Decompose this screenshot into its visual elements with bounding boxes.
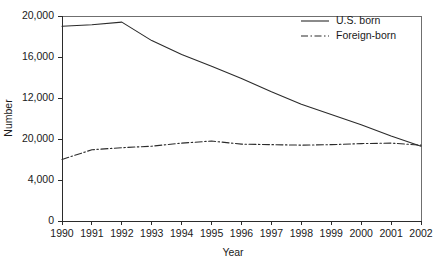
x-axis-tick-label: 1994 (170, 227, 194, 239)
plot-axes (62, 16, 421, 221)
x-axis-tick-label: 1999 (320, 227, 344, 239)
x-axis-tick-label: 1990 (50, 227, 74, 239)
chart-container: 04,00020,00012,00016,00020,000 199019911… (0, 0, 448, 262)
y-axis-tick-label: 12,000 (22, 91, 54, 103)
x-axis-tick-label: 1991 (80, 227, 104, 239)
x-axis-tick-label: 1996 (230, 227, 254, 239)
plot-frame-top-right (62, 16, 421, 221)
legend-label-2: Foreign-born (336, 29, 396, 41)
y-axis-tick-label: 20,000 (22, 9, 54, 21)
chart-legend: U.S. bornForeign-born (301, 14, 396, 41)
y-axis-ticks: 04,00020,00012,00016,00020,000 (22, 9, 62, 226)
x-axis-tick-label: 2000 (349, 227, 373, 239)
y-axis-title: Number (2, 99, 14, 137)
x-axis-ticks: 1990199119921993199419951996199719981999… (50, 221, 433, 239)
series-line-2 (62, 141, 421, 159)
x-axis-tick-label: 1993 (140, 227, 164, 239)
x-axis-tick-label: 1998 (290, 227, 314, 239)
data-series-group (62, 22, 421, 159)
legend-label-1: U.S. born (336, 14, 381, 26)
x-axis-tick-label: 1992 (110, 227, 134, 239)
x-axis-title: Year (222, 246, 244, 258)
y-axis-tick-label: 16,000 (22, 50, 54, 62)
y-axis-tick-label: 20,000 (22, 132, 54, 144)
line-chart: 04,00020,00012,00016,00020,000 199019911… (0, 0, 448, 262)
x-axis-tick-label: 2002 (409, 227, 433, 239)
y-axis-tick-label: 4,000 (28, 173, 54, 185)
y-axis-tick-label: 0 (48, 214, 54, 226)
x-axis-tick-label: 1997 (260, 227, 284, 239)
x-axis-tick-label: 2001 (379, 227, 403, 239)
x-axis-tick-label: 1995 (200, 227, 224, 239)
plot-frame (62, 16, 421, 221)
